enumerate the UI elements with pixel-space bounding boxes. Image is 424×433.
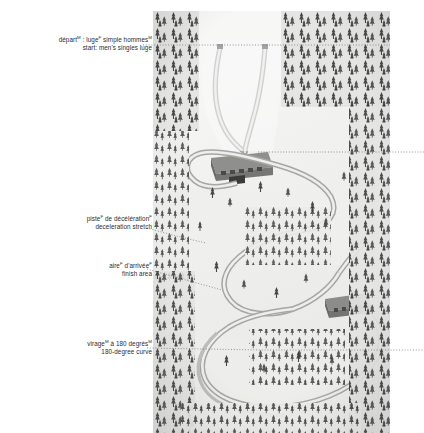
label-start-fr: départM : lugeF simple hommesM [59, 36, 152, 44]
label-deceleration-fr: pisteF de décélérationF [87, 215, 152, 223]
gender-marker: M [148, 339, 152, 344]
label-curve-en: 180-degree curve [87, 348, 152, 356]
label-deceleration-stretch: pisteF de décélérationF deceleration str… [87, 215, 152, 230]
label-finish-en: finish area [109, 270, 152, 278]
diagram-canvas: départM : lugeF simple hommesM start: me… [0, 0, 424, 433]
label-finish-area: aireF d'arrivéeF finish area [109, 262, 152, 277]
label-180-degree-curve: virageM à 180 degrésM 180-degree curve [87, 340, 152, 355]
gender-marker: F [149, 261, 152, 266]
gender-marker: M [148, 35, 152, 40]
label-start-en: start: men's singles luge [59, 44, 152, 52]
gender-marker: F [149, 214, 152, 219]
label-deceleration-en: deceleration stretch [87, 223, 152, 231]
label-start-mens-singles-luge: départM : lugeF simple hommesM start: me… [59, 36, 152, 51]
label-curve-fr: virageM à 180 degrésM [87, 340, 152, 348]
luge-track-aerial-illustration [153, 11, 390, 433]
label-finish-fr: aireF d'arrivéeF [109, 262, 152, 270]
